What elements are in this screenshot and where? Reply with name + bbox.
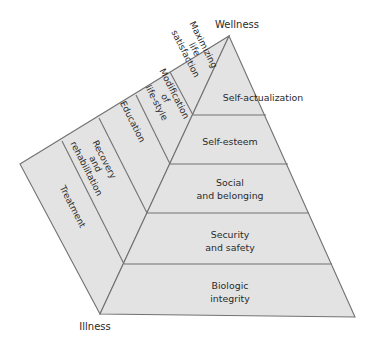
level-label-self-actualization: Self-actualization — [223, 92, 304, 103]
level-label-social-1: Social — [216, 177, 244, 188]
level-label-biologic-2: integrity — [210, 293, 250, 304]
level-label-biologic-1: Biologic — [212, 280, 249, 291]
level-label-social-2: and belonging — [196, 190, 263, 201]
level-label-self-esteem: Self-esteem — [202, 136, 258, 147]
level-label-security-2: and safety — [205, 242, 255, 253]
illness-label: Illness — [79, 321, 110, 332]
wellness-illness-pyramid-diagram: Wellness Illness Self-actualization Self… — [0, 0, 370, 341]
level-label-security-1: Security — [211, 229, 250, 240]
wellness-label: Wellness — [215, 19, 259, 30]
